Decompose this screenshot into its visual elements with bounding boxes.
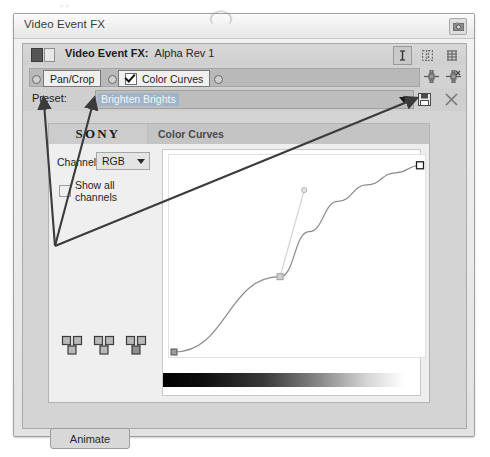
- mid-point-handle: [277, 274, 283, 280]
- luminance-gradient-bar: [163, 373, 420, 387]
- preset-combobox[interactable]: Brighten Brights: [95, 90, 414, 109]
- window-title: Video Event FX: [24, 18, 105, 30]
- fx-header-buttons: [393, 46, 460, 65]
- screenshot-root: ▫ ▫ Video Event FX Video Event: [0, 0, 490, 457]
- checkbox-box: [59, 185, 71, 197]
- fx-title-text: Video Event FX:: [65, 47, 149, 59]
- chain-node-label: Pan/Crop: [50, 73, 94, 85]
- sony-logo: SONY: [76, 126, 121, 142]
- text-tool-button[interactable]: [393, 46, 412, 65]
- text-cursor-icon: [398, 50, 407, 61]
- chevron-down-icon[interactable]: [399, 97, 409, 103]
- remove-plugin-button[interactable]: [445, 68, 462, 85]
- channel-value: RGB: [102, 155, 125, 167]
- tab-label: Color Curves: [158, 128, 224, 140]
- preset-label: Preset:: [32, 92, 67, 104]
- animate-button[interactable]: Animate: [50, 428, 130, 449]
- video-event-fx-window: Video Event FX Video Event FX:Alpha Rev …: [13, 13, 475, 437]
- add-plugin-button[interactable]: [423, 68, 440, 85]
- chain-mid-plug: [108, 75, 117, 84]
- chevron-down-icon: [137, 159, 145, 164]
- show-all-channels-label: Show all channels: [75, 179, 159, 203]
- fx-subject-text: Alpha Rev 1: [155, 47, 215, 59]
- save-icon: [418, 93, 431, 106]
- white-point-handle: [417, 162, 424, 169]
- page-artifact: ▫ ▫: [60, 1, 69, 11]
- camera-icon: [453, 22, 464, 31]
- preset-value[interactable]: Brighten Brights: [98, 93, 179, 106]
- fx-plugin-icon: [31, 48, 55, 60]
- plugin-body: SONY Color Curves Channel: RGB Show all …: [48, 123, 430, 403]
- channel-select[interactable]: RGB: [96, 152, 150, 170]
- curve-editor[interactable]: [162, 149, 421, 396]
- plugin-chain-row: Pan/Crop Color Curves: [23, 65, 466, 88]
- show-all-channels-checkbox[interactable]: Show all channels: [59, 179, 159, 203]
- titlebar-smudge: [209, 10, 233, 26]
- chain-node-pan-crop[interactable]: Pan/Crop: [43, 70, 101, 87]
- split-view-button[interactable]: [419, 47, 436, 64]
- animate-label: Animate: [70, 433, 110, 445]
- curve-preset-buttons: [60, 334, 150, 356]
- curve-preset-button-3[interactable]: [124, 334, 150, 356]
- chain-output-plug: [214, 75, 223, 84]
- chain-side-buttons: [423, 68, 462, 85]
- preset-side-buttons: [416, 91, 460, 108]
- black-point-handle: [171, 349, 177, 355]
- plugin-add-icon: [424, 70, 439, 83]
- chain-input-plug: [32, 75, 41, 84]
- curve-plot[interactable]: [168, 154, 426, 358]
- fx-panel: Video Event FX:Alpha Rev 1: [22, 43, 467, 429]
- nodes-icon: [92, 334, 118, 356]
- window-titlebar[interactable]: Video Event FX: [14, 14, 474, 39]
- fx-header-title: Video Event FX:Alpha Rev 1: [65, 47, 214, 59]
- preset-row: Preset: Brighten Brights: [23, 88, 466, 111]
- curve-preset-button-2[interactable]: [92, 334, 118, 356]
- tab-color-curves[interactable]: Color Curves: [148, 124, 234, 144]
- channel-label: Channel:: [57, 156, 99, 168]
- chain-node-checkbox[interactable]: [125, 73, 137, 85]
- delete-preset-button[interactable]: [443, 91, 460, 108]
- two-columns-icon: [422, 50, 433, 61]
- window-camera-button[interactable]: [449, 18, 467, 35]
- chain-node-label: Color Curves: [142, 73, 203, 85]
- chain-node-color-curves[interactable]: Color Curves: [118, 70, 210, 87]
- plugin-remove-icon: [446, 70, 461, 83]
- curve-preset-button-1[interactable]: [60, 334, 86, 356]
- nodes-icon: [60, 334, 86, 356]
- nodes-icon: [124, 334, 150, 356]
- save-preset-button[interactable]: [416, 91, 433, 108]
- close-icon: [445, 93, 458, 106]
- plugin-chain-track: Pan/Crop Color Curves: [29, 68, 420, 87]
- plugin-tabbar: SONY Color Curves: [49, 124, 429, 144]
- grid-view-button[interactable]: [443, 47, 460, 64]
- fx-header: Video Event FX:Alpha Rev 1: [23, 44, 466, 66]
- sony-logo-cell: SONY: [49, 124, 148, 144]
- plugin-left-panel: Channel: RGB Show all channels: [49, 144, 159, 402]
- grid-icon: [446, 50, 458, 61]
